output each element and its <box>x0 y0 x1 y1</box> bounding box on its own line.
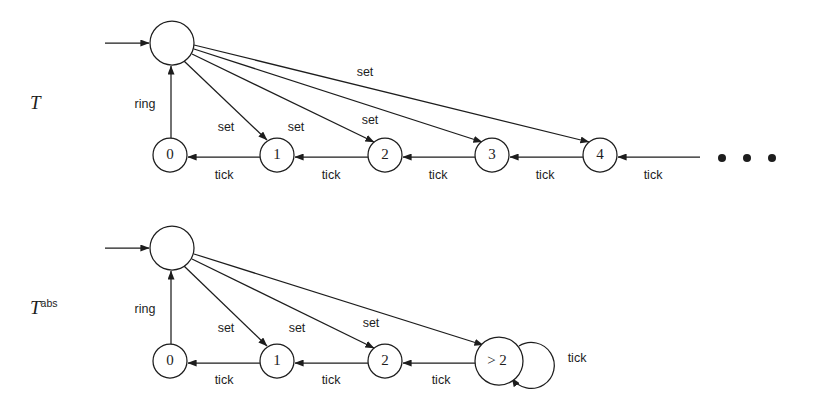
node-label-t-abs-2: 2 <box>381 352 389 368</box>
node-label-t-abs-0: 0 <box>166 352 174 368</box>
edge-label-tick-t-abs-1: tick <box>215 373 235 387</box>
system-label-t: T <box>30 92 42 113</box>
ellipsis-dot-2 <box>743 154 751 162</box>
edge-label-set-t-2: set <box>288 120 305 134</box>
edge-label-tick-t-abs-3: tick <box>432 373 452 387</box>
edge-label-set-t-4: set <box>357 65 374 79</box>
edge-label-set-t-3: set <box>362 113 379 127</box>
system-label-t-base: T <box>30 92 42 113</box>
edge-label-ring-t-abs: ring <box>135 302 156 316</box>
edge-label-set-t-abs-1: set <box>218 321 235 335</box>
graph-t-abs: 0 1 2 > 2 ring set set set tick tick tic… <box>30 226 587 388</box>
node-label-t-abs-1: 1 <box>273 352 281 368</box>
edge-label-set-t-abs-2: set <box>289 321 306 335</box>
ellipsis-dot-1 <box>718 154 726 162</box>
edge-label-tick-t-1: tick <box>215 168 235 182</box>
edge-set-t-abs-3 <box>194 254 483 345</box>
diagram-canvas: 0 1 2 3 4 ring set set set set tick tick… <box>0 0 816 406</box>
system-label-t-abs-sup: abs <box>41 297 58 309</box>
graph-t: 0 1 2 3 4 ring set set set set tick tick… <box>30 21 776 182</box>
edge-label-tick-t-4: tick <box>536 168 556 182</box>
ellipsis-dot-3 <box>768 154 776 162</box>
edge-label-tick-t-abs-self: tick <box>568 351 588 365</box>
edge-label-tick-t-5: tick <box>644 168 664 182</box>
edge-label-ring-t: ring <box>135 97 156 111</box>
edge-label-tick-t-2: tick <box>322 168 342 182</box>
node-label-t-1: 1 <box>273 146 281 162</box>
node-label-t-abs-gt2: > 2 <box>487 352 507 368</box>
edge-label-set-t-abs-3: set <box>363 316 380 330</box>
edge-set-t-3 <box>194 49 482 142</box>
node-label-t-3: 3 <box>488 146 496 162</box>
edge-label-set-t-1: set <box>218 120 235 134</box>
node-t-init[interactable] <box>150 21 194 65</box>
state-machine-figure: 0 1 2 3 4 ring set set set set tick tick… <box>0 0 816 406</box>
node-label-t-0: 0 <box>166 146 174 162</box>
node-t-abs-init[interactable] <box>150 226 194 270</box>
edge-label-tick-t-3: tick <box>429 168 449 182</box>
system-label-t-abs: Tabs <box>30 297 58 319</box>
edge-label-tick-t-abs-2: tick <box>322 373 342 387</box>
node-label-t-2: 2 <box>381 146 389 162</box>
node-label-t-4: 4 <box>596 146 604 162</box>
